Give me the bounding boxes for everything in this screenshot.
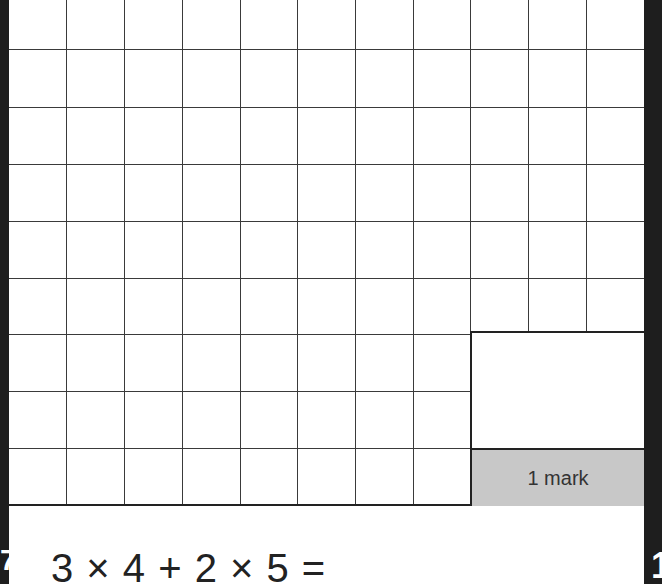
grid-vertical-line	[66, 0, 67, 506]
grid-vertical-line	[182, 0, 183, 506]
page-edge-right	[644, 0, 662, 584]
page-edge-left	[0, 0, 9, 584]
grid-vertical-line	[413, 0, 414, 506]
grid-vertical-line	[240, 0, 241, 506]
grid-horizontal-line	[9, 278, 644, 279]
question-expression: 3 × 4 + 2 × 5 =	[51, 546, 326, 584]
grid-vertical-line	[124, 0, 125, 506]
grid-horizontal-line	[9, 221, 644, 222]
grid-horizontal-line	[9, 164, 644, 165]
mark-box: 1 mark	[470, 331, 644, 508]
grid-vertical-line	[355, 0, 356, 506]
question-number-left: 7	[0, 548, 9, 572]
answer-box[interactable]	[472, 333, 644, 448]
mark-label: 1 mark	[472, 448, 644, 506]
grid-horizontal-line	[9, 107, 644, 108]
grid-horizontal-line	[9, 49, 644, 50]
question-number-right: 1	[651, 548, 662, 584]
grid-vertical-line	[297, 0, 298, 506]
question-area: 3 × 4 + 2 × 5 =	[9, 506, 644, 584]
